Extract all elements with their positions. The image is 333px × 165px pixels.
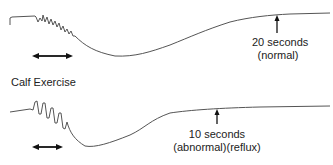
arrow-left-icon	[32, 144, 39, 150]
normal-annotation: 20 seconds (normal)	[252, 36, 304, 62]
arrow-right-icon	[56, 144, 63, 150]
normal-annotation-line1: 20 seconds	[252, 36, 304, 49]
arrow-head-icon	[275, 15, 280, 21]
arrow-right-icon	[66, 53, 73, 59]
section-label: Calf Exercise	[11, 76, 76, 89]
abnormal-trace	[10, 101, 330, 146]
arrow-left-icon	[32, 53, 39, 59]
abnormal-annotation-line1: 10 seconds	[172, 128, 262, 141]
normal-annotation-line2: (normal)	[252, 49, 304, 62]
abnormal-annotation: 10 seconds (abnormal)(reflux)	[172, 128, 262, 154]
arrow-head-icon	[215, 109, 220, 115]
abnormal-annotation-line2: (abnormal)(reflux)	[172, 141, 262, 154]
